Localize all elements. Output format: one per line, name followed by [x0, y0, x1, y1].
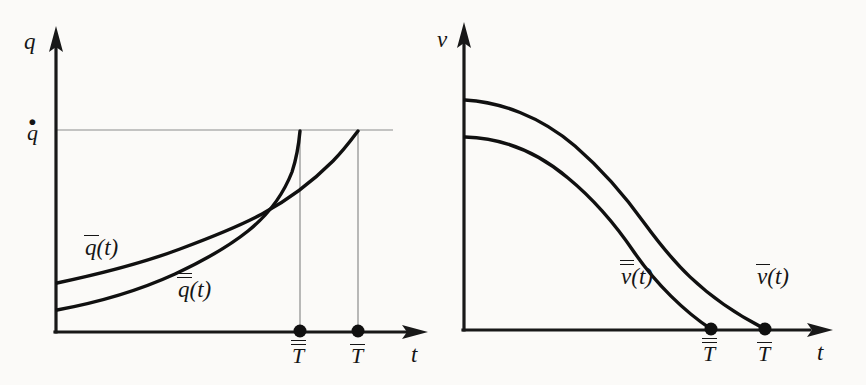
q-level-accent-icon: ● — [28, 115, 36, 129]
dot-T-double-bar-left — [294, 325, 307, 338]
q-level-glyph: ● q — [27, 122, 38, 144]
curve-label-v-bar: v(t) — [757, 265, 789, 288]
curve-q-bar — [57, 131, 358, 283]
left-panel-group — [49, 26, 428, 339]
v-double-bar-glyph: v — [621, 265, 631, 288]
v-bar-suffix: (t) — [767, 264, 789, 289]
tick-label-T-double-bar-right: T — [703, 343, 715, 365]
curve-v-bar — [465, 100, 765, 329]
q-bar-suffix: (t) — [97, 235, 119, 260]
T-bar-glyph-right: T — [758, 343, 770, 365]
q-double-bar-suffix: (t) — [190, 277, 212, 302]
figure-canvas — [0, 0, 866, 385]
tick-label-T-double-bar-left: T — [292, 345, 304, 367]
v-bar-glyph: v — [757, 265, 767, 288]
right-x-axis-label: t — [817, 341, 823, 364]
q-bar-glyph: q — [85, 236, 97, 259]
curve-label-q-double-bar: q(t) — [178, 278, 211, 301]
T-double-bar-glyph-right: T — [703, 343, 715, 365]
dot-T-bar-right — [759, 323, 772, 336]
T-double-bar-glyph-left: T — [292, 345, 304, 367]
curve-label-v-double-bar: v(t) — [621, 265, 653, 288]
right-panel-group — [457, 22, 833, 337]
tick-label-T-bar-right: T — [758, 343, 770, 365]
tick-label-T-bar-left: T — [351, 345, 363, 367]
T-bar-glyph-left: T — [351, 345, 363, 367]
left-x-axis-label: t — [411, 343, 417, 366]
v-double-bar-suffix: (t) — [631, 264, 653, 289]
dot-T-double-bar-right — [705, 323, 718, 336]
left-y-axis-label: q — [24, 30, 36, 53]
curve-label-q-bar: q(t) — [85, 236, 118, 259]
curve-v-double-bar — [465, 137, 711, 329]
q-double-bar-glyph: q — [178, 278, 190, 301]
dot-T-bar-left — [352, 325, 365, 338]
right-y-axis-label: v — [437, 28, 447, 51]
q-level-label: ● q — [27, 122, 38, 144]
figure-root: q ● q q(t) q(t) T T t v v(t) v(t) T T t — [0, 0, 866, 385]
